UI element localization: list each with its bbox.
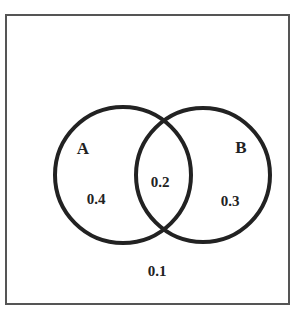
set-b-label: B xyxy=(235,138,246,157)
set-a-label: A xyxy=(77,139,90,158)
outside-value: 0.1 xyxy=(148,263,167,279)
universe-frame xyxy=(6,15,289,304)
set-a-circle xyxy=(55,107,191,243)
b-only-value: 0.3 xyxy=(221,193,240,209)
intersection-value: 0.2 xyxy=(151,174,170,190)
a-only-value: 0.4 xyxy=(87,191,106,207)
venn-diagram: A B 0.4 0.2 0.3 0.1 xyxy=(0,0,305,316)
